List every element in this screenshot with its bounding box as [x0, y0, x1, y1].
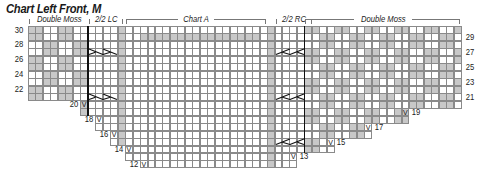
row-number-26: 26	[15, 55, 24, 64]
row-number-23: 23	[466, 78, 475, 87]
increase-symbol-icon: V	[112, 131, 117, 138]
row-number-22: 22	[15, 85, 24, 94]
chart-cell	[454, 101, 462, 109]
row-number-13: 13	[300, 152, 309, 161]
chart-cell	[402, 116, 410, 124]
row-number-14: 14	[115, 145, 124, 154]
chart-cell	[364, 131, 372, 139]
left-cross-cable-icon	[88, 48, 118, 55]
row-number-19: 19	[412, 108, 421, 117]
section-divider	[304, 26, 306, 153]
row-number-27: 27	[466, 48, 475, 57]
row-number-30: 30	[15, 26, 24, 35]
increase-symbol-icon: V	[97, 116, 102, 123]
chart-cell	[289, 160, 297, 168]
right-cross-cable-icon	[275, 93, 305, 100]
row-number-28: 28	[15, 40, 24, 49]
right-cross-cable-icon	[275, 48, 305, 55]
row-number-18: 18	[85, 115, 94, 124]
row-number-21: 21	[466, 93, 475, 102]
row-number-20: 20	[70, 100, 79, 109]
increase-symbol-icon: V	[142, 161, 147, 168]
increase-symbol-icon: V	[328, 139, 333, 146]
row-number-29: 29	[466, 33, 475, 42]
increase-symbol-icon: V	[127, 146, 132, 153]
increase-symbol-icon: V	[366, 124, 371, 131]
knitting-chart-grid: 3028262422292725232120V18V16V14V12VV19V1…	[0, 0, 488, 181]
row-number-16: 16	[100, 130, 109, 139]
chart-cell	[327, 146, 335, 154]
right-cross-cable-icon	[275, 138, 305, 145]
row-number-24: 24	[15, 70, 24, 79]
row-number-15: 15	[337, 138, 346, 147]
row-number-12: 12	[130, 160, 139, 169]
increase-symbol-icon: V	[403, 109, 408, 116]
increase-symbol-icon: V	[291, 153, 296, 160]
row-number-17: 17	[374, 123, 383, 132]
left-cross-cable-icon	[88, 93, 118, 100]
row-number-25: 25	[466, 63, 475, 72]
increase-symbol-icon: V	[82, 101, 87, 108]
section-divider	[87, 26, 89, 116]
